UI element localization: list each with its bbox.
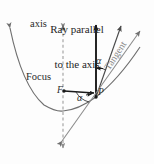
- point-p-label: P: [98, 88, 104, 98]
- figure-title-line-1: Ray parallel: [0, 24, 154, 36]
- figure-title-line-2: to the axis: [0, 59, 154, 71]
- alpha-lower-label: α: [77, 93, 82, 104]
- figure-title: Ray parallel to the axis: [0, 1, 154, 93]
- focus-point-label: F: [57, 86, 63, 96]
- axis-label: axis: [30, 18, 47, 29]
- parabola-reflection-diagram: Ray parallel to the axis axis Focus F P …: [0, 0, 154, 164]
- focus-label: Focus: [26, 71, 51, 82]
- alpha-upper-label: α: [96, 56, 101, 67]
- alpha-lower-arrow: [86, 94, 92, 95]
